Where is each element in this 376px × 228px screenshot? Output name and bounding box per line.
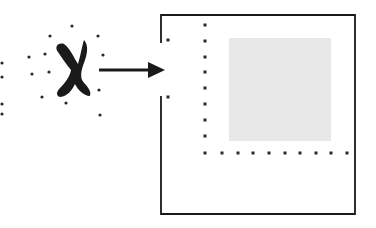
gray-square xyxy=(229,38,331,141)
dotted-horizontal-line xyxy=(221,152,349,155)
scatter-dot xyxy=(0,102,3,105)
scatter-dot xyxy=(40,95,43,98)
scatter-dot xyxy=(48,34,51,37)
x-glyph-icon xyxy=(56,40,90,97)
scatter-dots xyxy=(0,24,104,116)
diagram-canvas xyxy=(0,0,376,228)
scatter-dot xyxy=(30,72,33,75)
scatter-dot xyxy=(0,75,3,78)
opening-dots xyxy=(167,39,170,99)
scatter-dot xyxy=(64,101,67,104)
scatter-dot xyxy=(70,24,73,27)
scatter-dot xyxy=(0,61,3,64)
scatter-dot xyxy=(96,34,99,37)
scatter-dot xyxy=(98,113,101,116)
scatter-dot xyxy=(27,55,30,58)
scatter-dot xyxy=(101,53,104,56)
scatter-dot xyxy=(43,52,46,55)
scatter-dot xyxy=(97,88,100,91)
dotted-vertical-line xyxy=(204,24,207,155)
scatter-dot xyxy=(47,70,50,73)
arrow-right-icon xyxy=(99,62,165,78)
scatter-dot xyxy=(0,112,3,115)
